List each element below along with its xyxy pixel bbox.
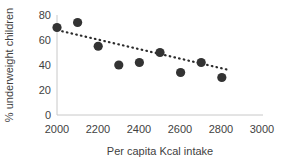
chart-background bbox=[0, 0, 283, 162]
chart-canvas: 80 60 40 20 0 2000 2200 2400 2600 2800 3… bbox=[0, 0, 283, 162]
y-tick-label-20: 20 bbox=[39, 84, 51, 96]
x-tick-label-2800: 2800 bbox=[209, 123, 233, 135]
data-point bbox=[94, 42, 103, 51]
y-tick-label-0: 0 bbox=[45, 109, 51, 121]
y-tick-label-80: 80 bbox=[39, 9, 51, 21]
data-point bbox=[135, 58, 144, 67]
data-point bbox=[197, 58, 206, 67]
x-tick-label-3000: 3000 bbox=[250, 123, 274, 135]
scatter-chart: 80 60 40 20 0 2000 2200 2400 2600 2800 3… bbox=[0, 0, 283, 162]
data-point bbox=[155, 48, 164, 57]
data-point bbox=[176, 68, 185, 77]
data-point bbox=[217, 73, 226, 82]
data-point bbox=[114, 60, 123, 69]
x-axis-title: Per capita Kcal intake bbox=[107, 145, 213, 157]
y-axis-title: % underweight children bbox=[3, 8, 15, 122]
x-tick-label-2400: 2400 bbox=[127, 123, 151, 135]
x-tick-label-2600: 2600 bbox=[168, 123, 192, 135]
data-point bbox=[73, 18, 82, 27]
data-point bbox=[52, 23, 61, 32]
y-tick-label-40: 40 bbox=[39, 59, 51, 71]
x-tick-label-2000: 2000 bbox=[45, 123, 69, 135]
y-tick-label-60: 60 bbox=[39, 34, 51, 46]
x-tick-label-2200: 2200 bbox=[86, 123, 110, 135]
